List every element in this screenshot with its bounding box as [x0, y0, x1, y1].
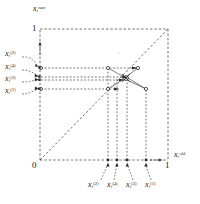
identity-diagonal-line [40, 29, 168, 160]
y-axis-label: xinew [33, 5, 46, 14]
origin-tick-label: 0 [32, 161, 37, 170]
leader-head-x4 [115, 163, 119, 167]
leader-head-x3 [126, 163, 129, 167]
x-tick-4 [116, 159, 118, 161]
y-axis-label-sup: new [39, 5, 46, 10]
y-point-label-1-sup: (4) [10, 63, 15, 68]
x-point-label-2: xi(3) [126, 181, 137, 190]
y-point-label-2-sup: (3) [10, 75, 15, 80]
y-max-tick-label: 1 [32, 24, 37, 33]
x-point-label-2-sup: (3) [131, 181, 136, 186]
connector-lower-left [108, 79, 124, 89]
y-point-label-3-sup: (1) [10, 87, 15, 92]
leader-head-4 [35, 74, 39, 77]
leader-curve-2 [22, 57, 38, 66]
x-axis-tick-marks [107, 159, 147, 161]
y-tick-4 [38, 75, 40, 77]
leader-head-3 [35, 78, 39, 82]
x-axis-label-sup: old [180, 151, 186, 156]
y-point-label-3: xi(1) [5, 87, 16, 96]
leader-head-1 [35, 87, 39, 91]
x-point-label-0-sup: (2) [93, 181, 98, 186]
y-tick-2 [38, 66, 40, 68]
point-marker-2 [106, 66, 109, 69]
mapping-diagram-svg [0, 0, 200, 204]
scan-speck [118, 52, 119, 53]
arrowhead-1 [114, 88, 119, 91]
y-axis-label-sub: i [37, 8, 38, 13]
x-arrow-head [159, 159, 163, 162]
y-tick-1 [38, 88, 40, 90]
left-leader-arrowheads [35, 64, 39, 90]
x-max-tick-label: 1 [165, 161, 170, 170]
leader-head-x2 [106, 163, 110, 167]
x-point-label-0: xi(2) [88, 181, 99, 190]
connector-2 [108, 68, 124, 77]
y-point-label-0: xi(2) [5, 50, 16, 59]
y-arrow-head [38, 41, 41, 45]
point-marker-lower-left [106, 87, 109, 90]
leader-head-x1 [144, 163, 148, 167]
point-marker-top-right [136, 66, 139, 69]
x-axis-label: xiold [174, 151, 185, 160]
point-marker-1 [144, 87, 147, 90]
x-point-label-3: xi(1) [145, 181, 156, 190]
x-point-label-1: xi(4) [107, 181, 118, 190]
vertical-guide-lines [108, 68, 146, 160]
figure-canvas: xinew xiold 1 0 1 xi(2) xi(4) xi(3) xi(1… [0, 0, 200, 204]
x-axis-label-sub: i [178, 154, 179, 159]
y-tick-3 [38, 79, 40, 81]
y-point-label-1: xi(4) [5, 63, 16, 72]
y-point-label-2: xi(3) [5, 75, 16, 84]
x-point-label-3-sup: (1) [150, 181, 155, 186]
x-tick-2 [107, 159, 109, 161]
x-tick-1 [145, 159, 147, 161]
y-point-label-0-sup: (2) [10, 50, 15, 55]
x-tick-3 [126, 159, 128, 161]
bottom-leader-arrowheads [106, 163, 148, 167]
open-circle-markers [40, 66, 148, 90]
x-point-label-1-sup: (4) [112, 181, 117, 186]
cluster-center-dot [125, 77, 127, 79]
